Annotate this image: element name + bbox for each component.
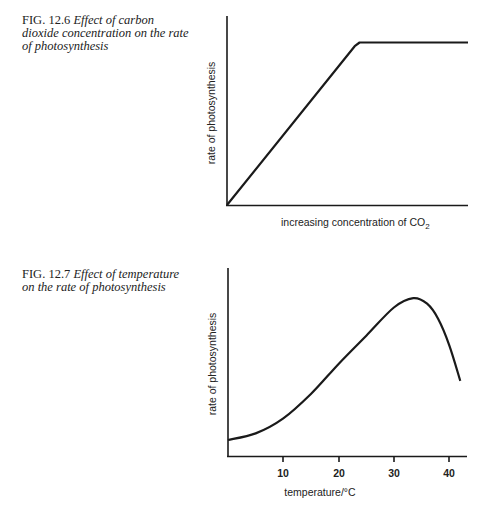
chart-temperature: 10 20 30 40 rate of photosynthesis tempe… [206,268,467,498]
tick-label-40: 40 [443,467,455,479]
tick-label-20: 20 [333,467,345,479]
x-axis-label-main: increasing concentration of CO [281,216,425,228]
temperature-rate-curve [228,298,460,440]
y-axis-label: rate of photosynthesis [206,313,218,416]
x-axis-label-subscript: 2 [425,222,430,231]
tick-label-10: 10 [277,467,289,479]
y-axis-label: rate of photosynthesis [205,62,217,165]
x-axis-label: increasing concentration of CO2 [281,216,430,231]
tick-label-30: 30 [388,467,400,479]
x-axis-label: temperature/°C [284,486,356,498]
chart-co2: rate of photosynthesis increasing concen… [205,16,468,231]
co2-rate-line [227,43,468,206]
x-axis-ticks: 10 20 30 40 [277,456,455,479]
charts-canvas: rate of photosynthesis increasing concen… [0,0,501,518]
